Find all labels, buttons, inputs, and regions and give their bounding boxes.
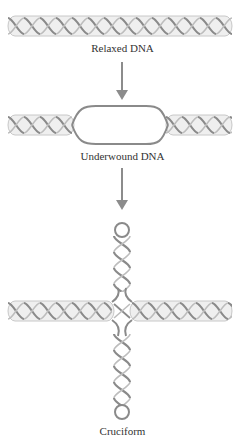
strand-bubble [72, 106, 168, 125]
dna-cruciform-diagram [0, 0, 245, 442]
down-arrow-icon [116, 168, 128, 210]
underwound-dna-label: Underwound DNA [0, 150, 245, 162]
underwound-dna-helix [8, 106, 232, 144]
relaxed-dna-label: Relaxed DNA [0, 42, 245, 54]
relaxed-dna-helix [8, 16, 232, 36]
down-arrow-icon [116, 62, 128, 100]
cruciform-structure [8, 223, 232, 419]
cruciform-label: Cruciform [0, 425, 245, 437]
